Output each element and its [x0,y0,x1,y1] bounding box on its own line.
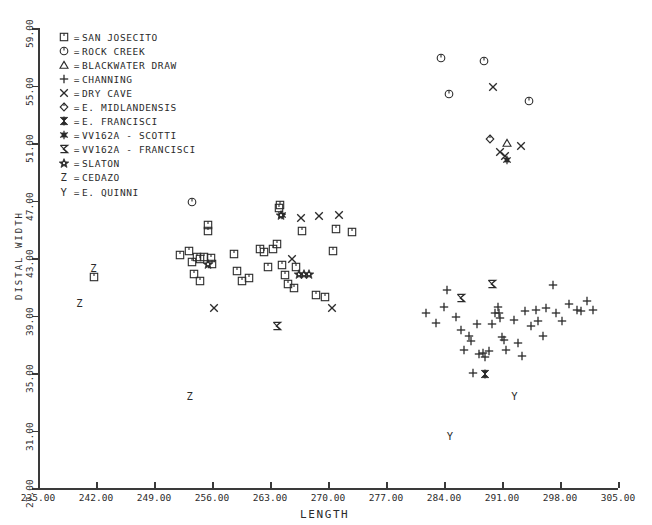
data-point [194,275,206,287]
data-point [587,304,599,316]
data-point [420,307,432,319]
data-point [290,261,302,273]
data-point [186,256,198,268]
data-point [279,269,291,281]
plot-data-area: ZZZYY [0,0,652,525]
data-point [191,251,203,263]
data-point [208,302,220,314]
data-point [477,347,489,359]
data-point [174,249,186,261]
data-point [286,253,298,265]
data-point [486,278,498,290]
data-point [254,243,266,255]
data-point [515,140,527,152]
data-point [435,52,447,64]
data-point [512,337,524,349]
data-point [243,272,255,284]
data-point [262,261,274,273]
data-point [455,324,467,336]
data-point [267,243,279,255]
data-point [500,344,512,356]
data-point [273,202,285,214]
data-point [202,225,214,237]
data-point [519,305,531,317]
data-point [271,238,283,250]
scatter-plot-figure: 27.0031.0035.0039.0043.0047.0051.0055.00… [0,0,652,525]
data-point [523,95,535,107]
data-point [501,137,513,149]
data-point [499,150,511,162]
data-point [441,284,453,296]
data-point [276,259,288,271]
data-point: Y [444,430,456,442]
data-point [471,318,483,330]
data-point [563,298,575,310]
data-point [295,212,307,224]
data-point [458,344,470,356]
data-point [463,330,475,342]
data-point [188,268,200,280]
data-point [231,265,243,277]
data-point [206,258,218,270]
data-point [494,146,506,158]
data-point [228,248,240,260]
data-point [183,245,195,257]
data-point [205,252,217,264]
data-point [575,305,587,317]
data-point [492,301,504,313]
data-point [484,133,496,145]
data-point: Y [508,390,520,402]
data-point [88,271,100,283]
data-point [550,307,562,319]
data-point [571,304,583,316]
data-point [298,268,310,280]
data-point [430,317,442,329]
data-point [483,345,495,357]
data-point [450,311,462,323]
data-point [194,253,206,265]
data-point [202,258,214,270]
data-point [274,199,286,211]
data-point [186,196,198,208]
data-point [486,318,498,330]
data-point [501,154,513,166]
data-point: Z [88,262,100,274]
data-point [202,219,214,231]
data-point [537,330,549,342]
data-point: Z [73,297,85,309]
data-point [443,88,455,100]
data-point [479,368,491,380]
data-point [282,278,294,290]
data-point [532,315,544,327]
data-point [236,275,248,287]
data-point [288,282,300,294]
data-point [310,289,322,301]
data-point [581,295,593,307]
data-point [494,312,506,324]
data-point [326,302,338,314]
data-point [275,209,287,221]
data-point [489,307,501,319]
data-point [455,292,467,304]
data-point [556,315,568,327]
data-point [293,268,305,280]
data-point [319,291,331,303]
data-point [303,268,315,280]
data-point [271,320,283,332]
data-point [493,307,505,319]
data-point [330,223,342,235]
data-point [496,331,508,343]
data-point [198,251,210,263]
data-point [498,334,510,346]
data-point [547,279,559,291]
data-point [327,245,339,257]
data-point [465,335,477,347]
data-point [333,209,345,221]
data-point [530,304,542,316]
data-point [296,225,308,237]
data-point [479,351,491,363]
data-point [516,350,528,362]
data-point [508,314,520,326]
data-point [467,367,479,379]
data-point [258,246,270,258]
